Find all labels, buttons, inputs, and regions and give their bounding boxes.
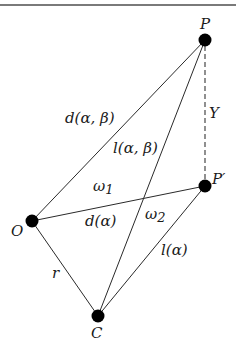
label-C: C	[91, 324, 103, 342]
label-l-alpha-beta: l(α, β)	[113, 139, 158, 157]
node-C	[92, 310, 105, 323]
omega2-subscript: 2	[156, 210, 165, 225]
edge-O-C	[32, 221, 98, 316]
node-P	[199, 34, 212, 47]
label-r: r	[52, 264, 60, 282]
label-d-alpha: d(α)	[85, 212, 117, 230]
node-P-prime	[199, 180, 212, 193]
edge-O-P	[32, 40, 205, 221]
edge-O-Pprime	[32, 186, 205, 221]
edge-C-P	[98, 40, 205, 316]
label-d-alpha-beta: d(α, β)	[65, 109, 115, 127]
label-Y: Y	[209, 104, 221, 122]
node-O	[26, 215, 39, 228]
geometry-diagram: P P′ O C d(α, β) l(α, β) d(α) l(α) r Y ω…	[0, 0, 240, 357]
omega1-symbol: ω	[93, 177, 105, 195]
label-omega1: ω1	[93, 177, 114, 197]
omega2-symbol: ω	[145, 205, 157, 223]
label-P-prime: P′	[211, 170, 226, 188]
label-l-alpha: l(α)	[161, 241, 188, 259]
omega1-subscript: 1	[105, 182, 113, 197]
label-O: O	[11, 222, 23, 240]
label-P: P	[199, 15, 211, 33]
label-omega2: ω2	[145, 205, 166, 225]
